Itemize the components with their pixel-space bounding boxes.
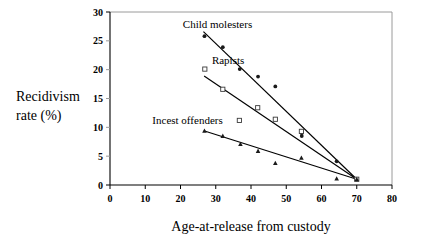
x-axis-title: Age-at-release from custody [171,219,330,234]
y-tick-label-0: 0 [98,180,103,191]
x-tick-label-70: 70 [352,193,362,204]
series-label-rapists: Rapists [212,54,244,66]
point-child-molesters-2 [238,67,242,71]
point-rapists-0 [203,67,207,71]
point-incest-offenders-5 [299,155,304,159]
point-child-molesters-4 [273,84,277,88]
point-incest-offenders-3 [256,149,261,153]
series-label-incest-offenders: Incest offenders [152,114,222,126]
y-axis: 051015202530 [93,7,110,191]
x-axis-ticks [110,185,392,189]
y-axis-title-line1: Recidivism [16,89,80,104]
point-child-molesters-7 [335,159,339,163]
point-incest-offenders-0 [202,128,207,132]
point-rapists-5 [299,129,303,133]
point-incest-offenders-4 [273,161,278,165]
plot-frame [110,12,392,185]
point-child-molesters-1 [221,45,225,49]
point-incest-offenders-6 [334,176,339,180]
x-tick-label-20: 20 [176,193,186,204]
series-label-child-molesters: Child molesters [183,18,252,30]
y-axis-tick-labels: 051015202530 [93,7,103,191]
series-annotations: Child molestersRapistsIncest offenders [152,18,252,126]
point-rapists-3 [256,106,260,110]
y-tick-label-25: 25 [93,35,103,46]
y-tick-label-15: 15 [93,93,103,104]
x-tick-label-80: 80 [387,193,397,204]
point-child-molesters-0 [203,34,207,38]
y-tick-label-20: 20 [93,64,103,75]
x-axis-tick-labels: 01020304050607080 [108,193,398,204]
regression-line-rapists [204,76,357,179]
x-tick-label-30: 30 [211,193,221,204]
x-tick-label-60: 60 [317,193,327,204]
point-child-molesters-3 [256,75,260,79]
recidivism-chart-figure: 051015202530 01020304050607080 Child mol… [0,0,439,244]
y-axis-title: Recidivism rate (%) [16,89,80,124]
x-tick-label-50: 50 [281,193,291,204]
regression-line-incest-offenders [204,131,357,179]
y-axis-ticks [106,12,110,185]
x-tick-label-0: 0 [108,193,113,204]
y-axis-title-line2: rate (%) [16,108,62,124]
point-child-molesters-6 [300,134,304,138]
y-tick-label-10: 10 [93,122,103,133]
y-tick-label-30: 30 [93,7,103,18]
x-tick-label-40: 40 [246,193,256,204]
y-tick-label-5: 5 [98,151,103,162]
point-rapists-4 [273,117,277,121]
x-tick-label-10: 10 [140,193,150,204]
point-rapists-1 [221,87,225,91]
chart-canvas: 051015202530 01020304050607080 Child mol… [0,0,439,244]
point-rapists-2 [237,118,241,122]
x-axis: 01020304050607080 [108,185,398,204]
